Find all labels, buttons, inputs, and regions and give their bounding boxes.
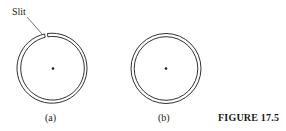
panel-a-label: (a) — [45, 112, 56, 123]
panel-b-label: (b) — [158, 112, 170, 123]
slit-leader-line — [27, 17, 42, 34]
figure-caption: FIGURE 17.5 — [218, 112, 279, 123]
center-dot-b — [165, 67, 168, 70]
slit-label: Slit — [12, 6, 26, 17]
center-dot-a — [52, 67, 55, 70]
